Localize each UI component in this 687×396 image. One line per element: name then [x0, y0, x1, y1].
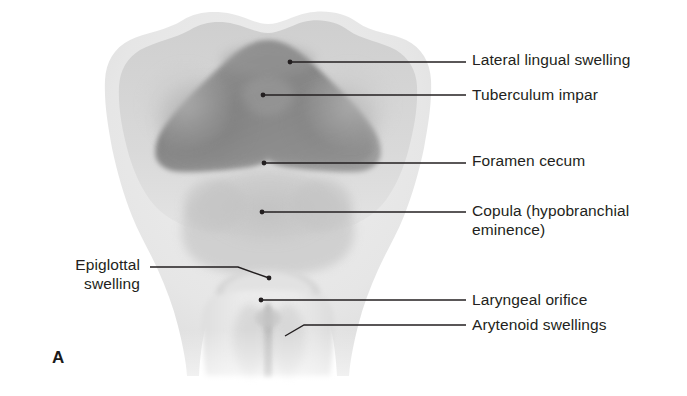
anatomy-figure-panel-a: Lateral lingual swelling Tuberculum impa… [0, 0, 687, 396]
label-copula-hypobranchial-eminence: Copula (hypobranchial eminence) [472, 201, 629, 239]
label-lateral-lingual-swelling: Lateral lingual swelling [472, 50, 630, 69]
label-arytenoid-swellings: Arytenoid swellings [472, 315, 607, 334]
label-epiglottal-swelling: Epiglottal swelling [0, 255, 140, 293]
copula-hypobranchial-eminence-shape [182, 170, 355, 276]
label-tuberculum-impar: Tuberculum impar [472, 85, 598, 104]
label-laryngeal-orifice: Laryngeal orifice [472, 290, 587, 309]
panel-letter-a: A [52, 348, 64, 368]
label-foramen-cecum: Foramen cecum [472, 151, 585, 170]
